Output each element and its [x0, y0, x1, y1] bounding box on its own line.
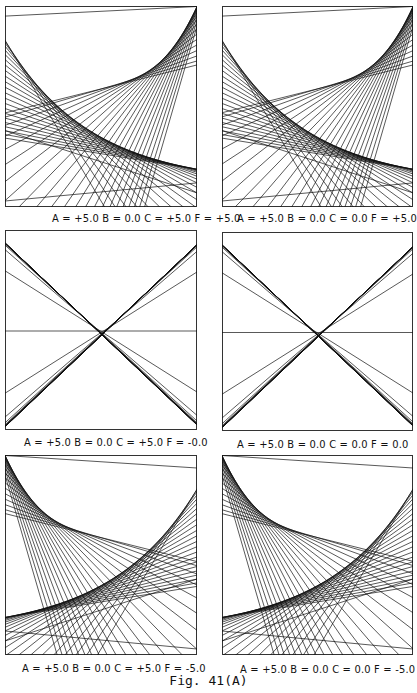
panel-caption-1: A = +5.0 B = 0.0 C = +5.0 F = +5.0 [52, 212, 241, 225]
panel-caption-4: A = +5.0 B = 0.0 C = 0.0 F = 0.0 [237, 438, 409, 451]
line-envelope-plot [222, 6, 413, 207]
envelope-panel-2 [222, 6, 413, 207]
envelope-panel-1 [5, 6, 197, 207]
envelope-panel-3 [5, 230, 197, 430]
line-envelope-plot [5, 6, 197, 207]
panel-caption-2: A = +5.0 B = 0.0 C = 0.0 F = +5.0 [237, 212, 417, 225]
figure-caption: Fig. 41(A) [0, 673, 417, 688]
envelope-panel-4 [222, 232, 413, 431]
envelope-panel-5 [5, 455, 197, 655]
line-envelope-plot [5, 455, 197, 655]
line-envelope-plot [222, 455, 413, 655]
line-envelope-plot [222, 232, 413, 431]
line-envelope-plot [5, 230, 197, 430]
envelope-panel-6 [222, 455, 413, 655]
panel-caption-3: A = +5.0 B = 0.0 C = +5.0 F = -0.0 [24, 436, 208, 449]
